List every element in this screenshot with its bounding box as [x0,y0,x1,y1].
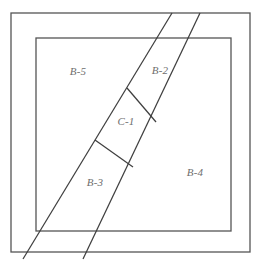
right-strip-line [83,13,200,259]
lower-cross-line [95,140,133,167]
parcel-label-b2: B-2 [152,64,169,76]
parcel-label-b3: B-3 [87,176,104,188]
parcel-diagram: B-5 B-2 C-1 B-3 B-4 [0,0,261,266]
left-strip-line [23,13,172,259]
inner-boundary-rect [36,38,231,231]
parcel-plan-svg: B-5 B-2 C-1 B-3 B-4 [0,0,261,266]
parcel-label-b4: B-4 [187,166,204,178]
parcel-label-c1: C-1 [117,115,134,127]
parcel-label-b5: B-5 [70,65,87,77]
outer-boundary-rect [11,13,250,252]
